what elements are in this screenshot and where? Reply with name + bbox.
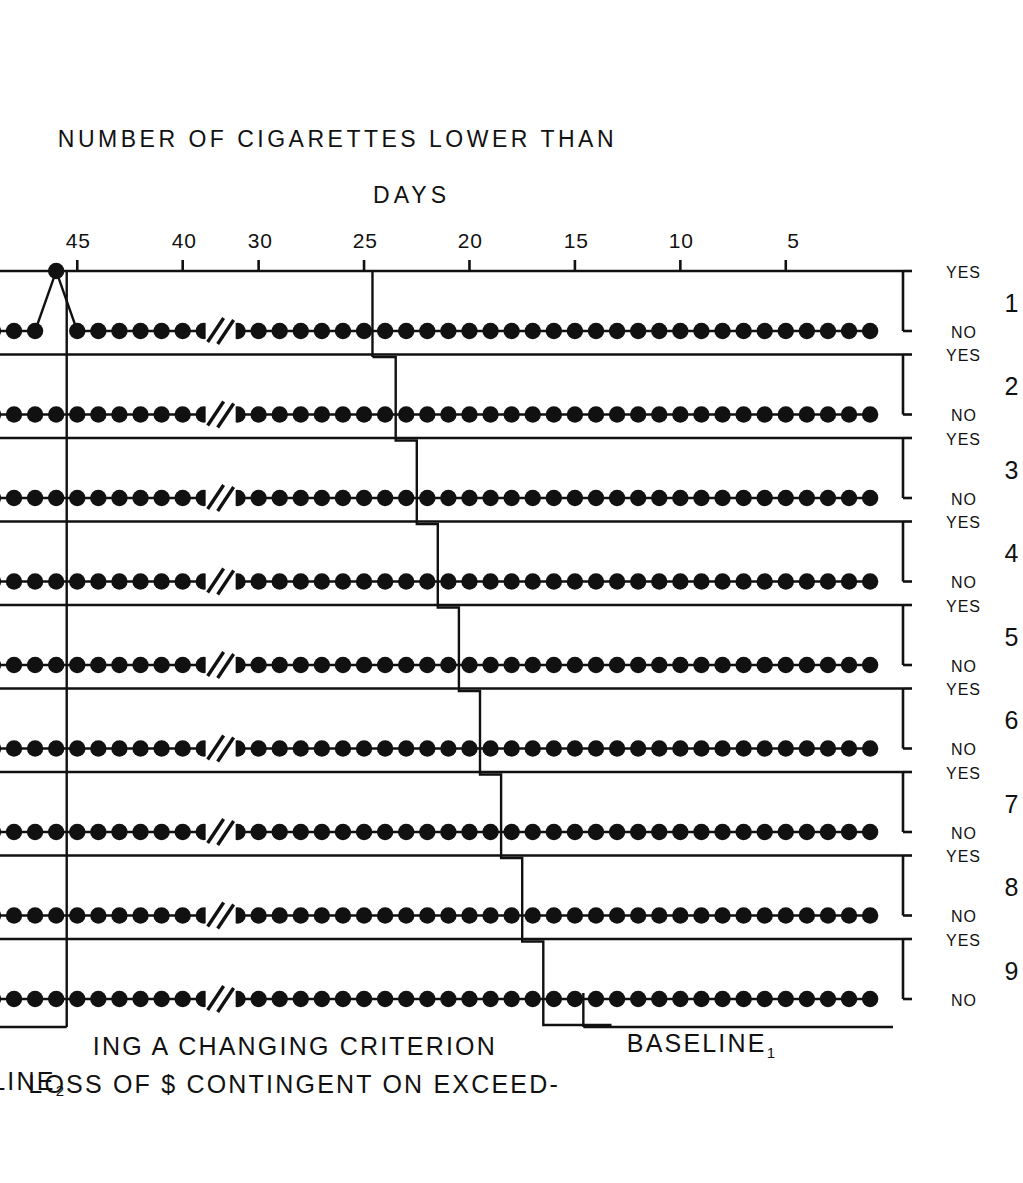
data-point <box>27 573 43 589</box>
data-point <box>377 323 393 339</box>
data-point <box>841 490 857 506</box>
x-tick-label-30: 30 <box>247 229 272 253</box>
data-point <box>419 991 435 1007</box>
data-point <box>588 657 604 673</box>
data-point <box>356 406 372 422</box>
data-point <box>440 740 456 756</box>
data-point <box>630 657 646 673</box>
data-point <box>588 824 604 840</box>
data-point <box>153 406 169 422</box>
data-point <box>609 907 625 923</box>
data-point <box>153 991 169 1007</box>
data-point <box>377 824 393 840</box>
data-point <box>0 406 1 422</box>
data-point <box>335 991 351 1007</box>
data-point <box>111 907 127 923</box>
data-point <box>271 907 287 923</box>
data-point <box>419 740 435 756</box>
data-point <box>440 406 456 422</box>
data-point <box>651 657 667 673</box>
panel-5-axis-break-icon <box>206 650 236 680</box>
data-point <box>482 406 498 422</box>
data-point <box>111 323 127 339</box>
data-point <box>651 490 667 506</box>
data-point <box>714 991 730 1007</box>
data-point <box>440 657 456 673</box>
data-point <box>609 323 625 339</box>
data-point <box>377 490 393 506</box>
data-point <box>48 263 64 279</box>
data-point <box>0 740 1 756</box>
data-point <box>440 824 456 840</box>
data-point <box>503 657 519 673</box>
panel-1-label-no: NO <box>951 324 977 342</box>
data-point <box>356 490 372 506</box>
data-point <box>250 657 266 673</box>
data-point <box>778 323 794 339</box>
data-point <box>293 573 309 589</box>
data-point <box>69 740 85 756</box>
data-point <box>756 490 772 506</box>
figure-canvas: NOYES9NOYES8NOYES7NOYES6NOYES5NOYES4NOYE… <box>0 148 1023 1035</box>
data-point <box>672 657 688 673</box>
data-point <box>132 406 148 422</box>
data-point <box>482 323 498 339</box>
data-point <box>503 490 519 506</box>
data-point <box>174 824 190 840</box>
data-point <box>546 824 562 840</box>
data-point <box>90 824 106 840</box>
data-point <box>314 573 330 589</box>
data-point <box>111 991 127 1007</box>
data-point <box>799 824 815 840</box>
data-point <box>525 657 541 673</box>
data-point <box>377 991 393 1007</box>
data-point <box>862 907 878 923</box>
data-point <box>69 573 85 589</box>
data-point <box>567 991 583 1007</box>
data-point <box>398 907 414 923</box>
data-point <box>461 824 477 840</box>
data-point <box>153 323 169 339</box>
data-point <box>651 991 667 1007</box>
data-point <box>820 907 836 923</box>
x-tick-label-25: 25 <box>353 229 378 253</box>
data-point <box>609 657 625 673</box>
data-point <box>735 490 751 506</box>
data-point <box>862 406 878 422</box>
data-point <box>820 323 836 339</box>
data-point <box>250 406 266 422</box>
data-point <box>356 991 372 1007</box>
data-point <box>293 907 309 923</box>
data-point <box>461 323 477 339</box>
data-point <box>756 824 772 840</box>
data-point <box>48 824 64 840</box>
panel-2-axis <box>0 355 912 415</box>
data-point <box>672 406 688 422</box>
data-point <box>799 907 815 923</box>
data-point <box>714 573 730 589</box>
data-point <box>609 573 625 589</box>
data-point <box>651 907 667 923</box>
panel-6-axis <box>0 689 912 749</box>
data-point <box>756 991 772 1007</box>
panel-1-number: 1 <box>1005 289 1019 318</box>
panel-4-label-no: NO <box>951 575 977 593</box>
data-point <box>69 323 85 339</box>
data-point <box>461 740 477 756</box>
data-point <box>735 323 751 339</box>
chart-plot-area <box>0 148 1023 1035</box>
data-point <box>482 991 498 1007</box>
data-point <box>630 490 646 506</box>
data-point <box>271 991 287 1007</box>
data-point <box>799 406 815 422</box>
data-point <box>293 323 309 339</box>
data-point <box>6 490 22 506</box>
data-point <box>27 323 43 339</box>
data-point <box>735 406 751 422</box>
panel-1-label-yes: YES <box>946 264 981 282</box>
data-point <box>90 323 106 339</box>
data-point <box>567 907 583 923</box>
data-point <box>820 573 836 589</box>
data-point <box>820 740 836 756</box>
